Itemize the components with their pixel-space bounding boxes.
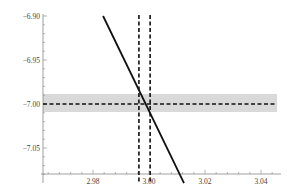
chart: −6.90−6.95−7.00−7.052.983.003.023.04 (0, 0, 287, 196)
y-tick-label: −6.95 (23, 56, 41, 65)
x-tick-label: 3.02 (198, 177, 211, 186)
x-tick-label: 3.00 (142, 177, 155, 186)
horizontal-uncertainty-band (43, 94, 277, 112)
uncertainty-band (43, 94, 277, 112)
y-tick-label: −7.05 (23, 144, 41, 153)
y-tick-label: −6.90 (23, 12, 41, 21)
x-tick-label: 2.98 (86, 177, 99, 186)
y-tick-label: −7.00 (23, 100, 41, 109)
x-tick-label: 3.04 (254, 177, 267, 186)
